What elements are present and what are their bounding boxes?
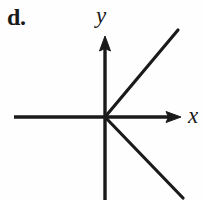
part-label: d.	[7, 5, 26, 29]
x-axis-arrowhead	[166, 112, 181, 123]
figure-container: d. y x	[0, 0, 202, 200]
y-axis-label: y	[96, 4, 106, 27]
x-axis-label: x	[188, 104, 198, 127]
lower-right-ray	[105, 117, 183, 198]
y-axis-arrowhead	[100, 36, 111, 51]
axes-group	[14, 36, 181, 200]
upper-right-ray	[105, 30, 178, 117]
coordinate-plane-graphic	[0, 0, 202, 200]
